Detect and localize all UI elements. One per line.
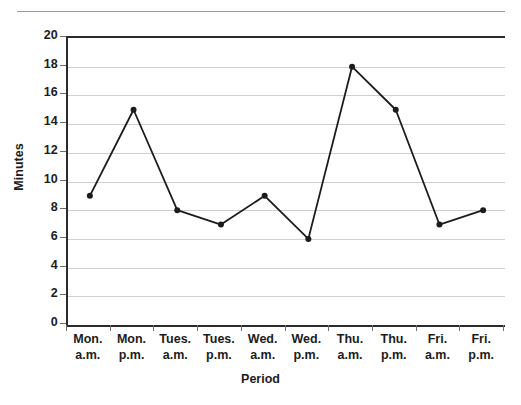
data-point-thu-a-m- — [349, 64, 355, 70]
x-tick-label-tues-a-m-: Tues.a.m. — [153, 331, 197, 363]
y-axis-tick-marks — [0, 36, 66, 323]
data-point-thu-p-m- — [393, 107, 399, 113]
data-point-mon-p-m- — [131, 107, 137, 113]
x-tick-label-wed-a-m-: Wed.a.m. — [241, 331, 285, 363]
top-divider-rule — [17, 11, 505, 12]
x-axis-title: Period — [0, 372, 521, 386]
x-tick-label-fri-a-m-: Fri.a.m. — [416, 331, 460, 363]
data-point-fri-a-m- — [436, 222, 442, 228]
x-tick-mark-10 — [503, 325, 504, 331]
x-tick-label-mon-p-m-: Mon.p.m. — [110, 331, 154, 363]
plot-area — [66, 36, 505, 327]
data-point-wed-p-m- — [305, 236, 311, 242]
data-point-mon-a-m- — [87, 193, 93, 199]
x-tick-label-thu-a-m-: Thu.a.m. — [328, 331, 372, 363]
x-tick-label-mon-a-m-: Mon.a.m. — [66, 331, 110, 363]
data-point-tues-a-m- — [174, 207, 180, 213]
chart-figure: Minutes 02468101214161820 Mon.a.m.Mon.p.… — [0, 0, 521, 405]
x-tick-label-fri-p-m-: Fri.p.m. — [459, 331, 503, 363]
x-tick-label-thu-p-m-: Thu.p.m. — [372, 331, 416, 363]
data-point-tues-p-m- — [218, 222, 224, 228]
data-point-wed-a-m- — [262, 193, 268, 199]
line-series — [68, 38, 505, 325]
x-tick-label-tues-p-m-: Tues.p.m. — [197, 331, 241, 363]
x-tick-label-wed-p-m-: Wed.p.m. — [285, 331, 329, 363]
data-point-fri-p-m- — [480, 207, 486, 213]
x-axis-tick-labels: Mon.a.m.Mon.p.m.Tues.a.m.Tues.p.m.Wed.a.… — [66, 331, 503, 371]
